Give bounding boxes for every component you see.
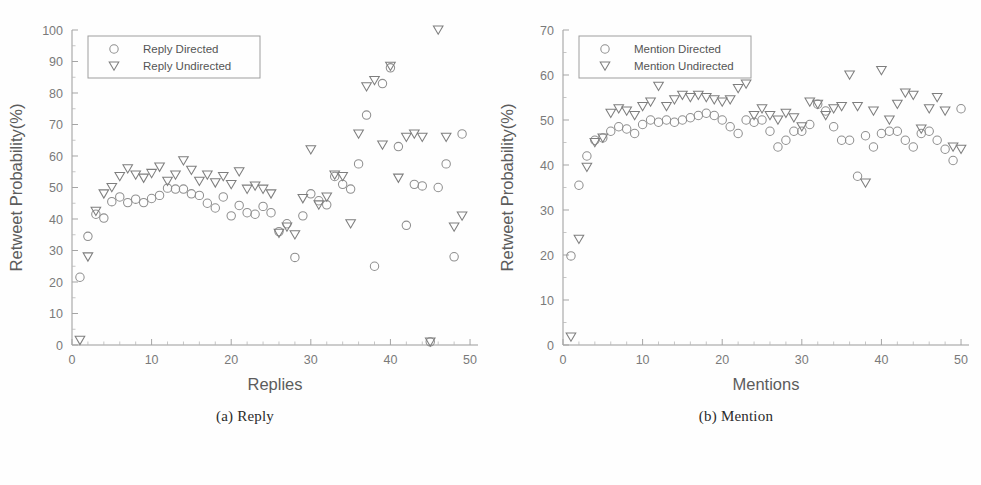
data-point-circle [299,212,307,220]
y-tick-label: 10 [49,307,63,321]
data-point-triangle [885,116,895,124]
data-point-triangle [242,185,252,193]
data-point-circle [726,123,734,131]
plot-axes [563,30,969,345]
data-point-triangle [378,141,388,149]
data-point-triangle [441,133,451,141]
data-point-circle [370,262,378,270]
data-point-circle [615,123,623,131]
data-point-circle [702,109,710,117]
y-tick-label: 40 [540,159,554,173]
data-point-circle [758,116,766,124]
legend-label: Reply Undirected [143,60,231,72]
data-point-triangle [449,223,459,231]
data-point-triangle [853,103,863,111]
x-tick-label: 0 [560,353,567,367]
y-axis-title: Retweet Probability(%) [498,104,516,272]
data-point-triangle [686,94,696,102]
data-point-triangle [861,179,871,187]
data-point-triangle [789,114,799,122]
data-point-circle [670,118,678,126]
data-point-circle [458,130,466,138]
data-point-triangle [99,190,109,198]
data-point-circle [829,123,837,131]
data-point-triangle [187,166,197,174]
legend-marker-triangle [109,62,119,70]
panel-caption-mention: (b) Mention [491,408,981,425]
legend-label: Mention Undirected [634,60,734,72]
x-tick-label: 20 [224,353,238,367]
data-point-triangle [893,100,903,108]
y-tick-label: 40 [49,213,63,227]
data-point-triangle [258,185,268,193]
data-point-circle [774,143,782,151]
data-point-triangle [394,174,404,182]
data-point-triangle [306,146,316,154]
data-point-triangle [574,235,584,243]
x-axis-title: Mentions [733,375,800,393]
data-point-triangle [346,220,356,228]
data-point-triangle [773,116,783,124]
data-point-triangle [290,231,300,239]
data-point-circle [354,160,362,168]
y-tick-label: 30 [540,204,554,218]
data-point-triangle [266,190,276,198]
x-tick-label: 50 [954,353,968,367]
data-point-circle [434,183,442,191]
data-point-triangle [717,98,727,106]
data-point-triangle [139,174,149,182]
data-point-circle [362,111,370,119]
data-point-circle [925,127,933,135]
data-point-circle [450,253,458,261]
data-point-circle [171,185,179,193]
data-point-circle [869,143,877,151]
data-point-triangle [298,195,308,203]
data-point-circle [861,132,869,140]
x-tick-label: 30 [795,353,809,367]
data-point-circle [116,193,124,201]
data-point-circle [259,202,267,210]
data-point-circle [147,194,155,202]
data-point-triangle [725,96,735,104]
data-point-circle [782,136,790,144]
figure-root: 010203040506070809010001020304050Replies… [0,0,981,485]
data-point-triangle [226,180,236,188]
x-axis-title: Replies [247,375,302,393]
y-tick-label: 60 [49,150,63,164]
y-tick-label: 20 [49,276,63,290]
data-point-triangle [924,105,934,113]
panel-mention: 01020304050607001020304050MentionsRetwee… [491,0,981,440]
data-point-circle [742,116,750,124]
x-tick-label: 40 [874,353,888,367]
data-point-circle [267,209,275,217]
data-point-circle [227,212,235,220]
data-point-circle [203,199,211,207]
y-tick-label: 50 [49,181,63,195]
data-point-triangle [179,157,189,165]
data-point-circle [806,120,814,128]
data-point-circle [307,190,315,198]
data-point-triangle [457,212,467,220]
data-point-circle [837,136,845,144]
y-tick-label: 0 [56,339,63,353]
data-point-circle [885,127,893,135]
data-point-circle [933,136,941,144]
y-tick-label: 70 [49,118,63,132]
data-point-triangle [654,82,664,90]
data-point-circle [949,156,957,164]
data-point-circle [291,253,299,261]
scatter-plot-reply: 010203040506070809010001020304050Replies… [0,0,490,400]
data-point-circle [131,195,139,203]
data-point-triangle [845,71,855,79]
data-point-triangle [932,94,942,102]
y-tick-label: 80 [49,87,63,101]
data-point-triangle [877,67,887,75]
data-point-circle [243,209,251,217]
data-point-triangle [147,169,157,177]
legend-label: Mention Directed [634,43,721,55]
data-point-triangle [749,112,759,120]
data-point-circle [686,114,694,122]
scatter-plot-mention: 01020304050607001020304050MentionsRetwee… [491,0,981,400]
data-point-circle [893,127,901,135]
data-point-triangle [837,103,847,111]
